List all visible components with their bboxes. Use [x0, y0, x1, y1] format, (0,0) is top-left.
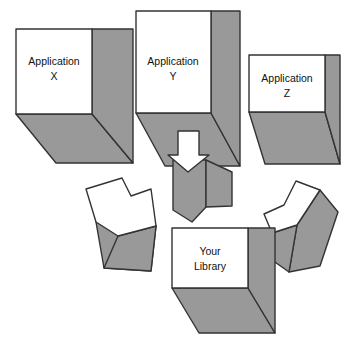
application-x-label-line2: X: [50, 70, 57, 82]
node-application-x[interactable]: Application X: [16, 29, 133, 163]
diagram-canvas: Application X Application Y Application …: [0, 0, 356, 345]
application-z-bottom-face: [249, 112, 340, 164]
node-application-z[interactable]: Application Z: [249, 55, 340, 164]
your-library-label-line1: Your: [199, 245, 221, 257]
application-z-label-line1: Application: [261, 72, 313, 84]
your-library-front-face: [172, 228, 248, 288]
node-your-library[interactable]: Your Library: [172, 228, 275, 333]
application-y-label-line2: Y: [169, 70, 176, 82]
arrow-y-extrude-right: [206, 160, 232, 207]
isometric-block-diagram: Application X Application Y Application …: [0, 0, 356, 345]
connector-arrow-x-to-library: [86, 178, 156, 271]
your-library-label-line2: Library: [194, 260, 227, 272]
application-y-label-line1: Application: [147, 55, 199, 67]
application-x-label-line1: Application: [28, 55, 80, 67]
application-z-label-line2: Z: [284, 87, 291, 99]
